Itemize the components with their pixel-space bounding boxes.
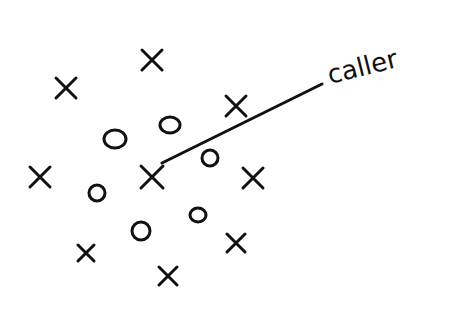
x-marks — [30, 50, 263, 285]
caller-label: caller — [324, 43, 401, 89]
x-mark-icon — [226, 96, 246, 116]
o-mark-icon — [104, 130, 126, 148]
x-mark-icon — [78, 245, 94, 261]
o-mark-icon — [89, 185, 105, 201]
play-diagram: caller — [0, 0, 453, 310]
x-mark-icon — [30, 167, 50, 187]
o-mark-icon — [202, 150, 218, 166]
o-mark-icon — [190, 208, 206, 222]
x-mark-icon — [56, 78, 76, 98]
x-mark-icon — [227, 234, 245, 252]
x-mark-icon — [159, 267, 177, 285]
x-mark-icon — [141, 166, 163, 188]
caller-pointer-line — [162, 84, 322, 163]
x-mark-icon — [243, 168, 263, 188]
x-mark-icon — [142, 50, 162, 70]
o-mark-icon — [132, 222, 150, 240]
o-mark-icon — [160, 117, 180, 133]
